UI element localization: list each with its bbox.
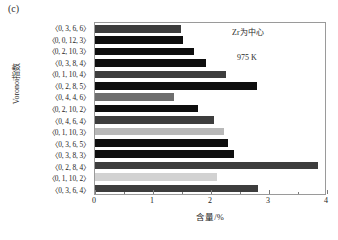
bar (95, 48, 194, 56)
x-tick-minor (240, 192, 241, 195)
bar (95, 71, 226, 79)
bar-row (95, 103, 325, 114)
category-label: 〈0, 2, 8, 4〉 (16, 160, 92, 172)
category-label: 〈0, 4, 4, 6〉 (16, 91, 92, 103)
x-ticklabel: 3 (266, 196, 270, 205)
x-tick (153, 190, 154, 194)
x-tick (327, 190, 328, 194)
category-label: 〈0, 1, 10, 4〉 (16, 68, 92, 80)
x-tick-minor (298, 192, 299, 195)
bar (95, 59, 206, 67)
bar-row (95, 91, 325, 102)
bar (95, 116, 214, 124)
category-label: 〈0, 3, 6, 5〉 (16, 137, 92, 149)
bar-row (95, 160, 325, 171)
bar (95, 185, 258, 193)
category-label: 〈0, 1, 10, 2〉 (16, 172, 92, 184)
bar-row (95, 23, 325, 34)
x-tick-minor (182, 192, 183, 195)
figure-panel-c: (c) Voronoi指数 〈0, 3, 6, 6〉〈0, 0, 12, 3〉〈… (0, 0, 338, 240)
category-label: 〈0, 3, 8, 3〉 (16, 149, 92, 161)
bar (95, 173, 217, 181)
bar-row (95, 69, 325, 80)
bar-row (95, 57, 325, 68)
bar-row (95, 80, 325, 91)
category-label: 〈0, 1, 10, 3〉 (16, 126, 92, 138)
bar (95, 93, 174, 101)
bar-row (95, 148, 325, 159)
bar (95, 25, 181, 33)
category-label: 〈0, 3, 6, 6〉 (16, 22, 92, 34)
x-ticklabel: 0 (92, 196, 96, 205)
x-ticklabel: 4 (324, 196, 328, 205)
bar-row (95, 114, 325, 125)
x-tick (211, 190, 212, 194)
bar-row (95, 183, 325, 194)
bar-row (95, 126, 325, 137)
category-label: 〈0, 3, 6, 4〉 (16, 183, 92, 195)
x-axis-ticklabels: 01234 (94, 196, 326, 208)
x-axis-title: 含量/% (94, 210, 326, 222)
category-label: 〈0, 2, 10, 3〉 (16, 45, 92, 57)
bar-row (95, 171, 325, 182)
annotation-temperature: 975 K (237, 53, 257, 62)
bar-row (95, 46, 325, 57)
x-tick-minor (124, 192, 125, 195)
category-label: 〈0, 2, 10, 2〉 (16, 103, 92, 115)
bar (95, 162, 318, 170)
bar (95, 128, 224, 136)
x-ticklabel: 1 (150, 196, 154, 205)
bar (95, 82, 257, 90)
bar (95, 105, 198, 113)
category-label-list: 〈0, 3, 6, 6〉〈0, 0, 12, 3〉〈0, 2, 10, 3〉〈0… (16, 22, 92, 195)
bar (95, 36, 183, 44)
plot-area (94, 22, 326, 195)
bar (95, 139, 228, 147)
category-label: 〈0, 2, 8, 5〉 (16, 80, 92, 92)
bar-row (95, 137, 325, 148)
bar (95, 150, 234, 158)
x-ticklabel: 2 (208, 196, 212, 205)
category-label: 〈0, 3, 8, 4〉 (16, 57, 92, 69)
category-label: 〈0, 0, 12, 3〉 (16, 34, 92, 46)
x-tick (95, 190, 96, 194)
category-label: 〈0, 4, 6, 4〉 (16, 114, 92, 126)
panel-label: (c) (8, 3, 19, 14)
x-tick (269, 190, 270, 194)
annotation-center-atom: Zr为中心 (232, 26, 264, 37)
bar-series (95, 23, 325, 194)
bar-row (95, 34, 325, 45)
